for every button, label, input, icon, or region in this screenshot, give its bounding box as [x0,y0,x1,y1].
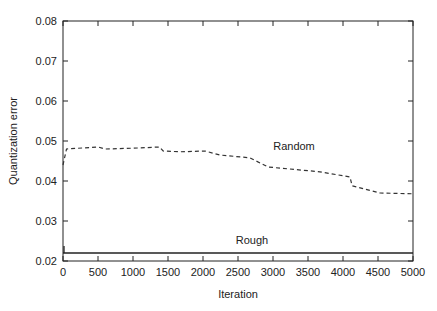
y-tick-label: 0.02 [36,255,57,267]
x-tick-label: 2000 [191,266,215,278]
x-tick-label: 2500 [226,266,250,278]
x-tick-label: 3000 [261,266,285,278]
line-chart: 0.020.030.040.050.060.070.08 05001000150… [0,0,437,311]
x-tick-label: 0 [60,266,66,278]
x-tick-label: 1500 [156,266,180,278]
y-tick-label: 0.03 [36,215,57,227]
y-tick-label: 0.06 [36,95,57,107]
y-tick-label: 0.04 [36,175,57,187]
y-tick-label: 0.05 [36,135,57,147]
rough-label: Rough [236,234,268,246]
x-tick-label: 500 [89,266,107,278]
random-label: Random [273,140,315,152]
random-series-line [63,147,413,194]
y-axis-ticks: 0.020.030.040.050.060.070.08 [36,15,413,267]
y-tick-label: 0.08 [36,15,57,27]
x-tick-label: 3500 [296,266,320,278]
x-tick-label: 4500 [366,266,390,278]
y-axis-title: Quantization error [7,97,19,185]
plot-frame [63,21,413,261]
x-tick-label: 5000 [401,266,425,278]
x-tick-label: 1000 [121,266,145,278]
x-tick-label: 4000 [331,266,355,278]
x-axis-title: Iteration [218,288,258,300]
y-tick-label: 0.07 [36,55,57,67]
